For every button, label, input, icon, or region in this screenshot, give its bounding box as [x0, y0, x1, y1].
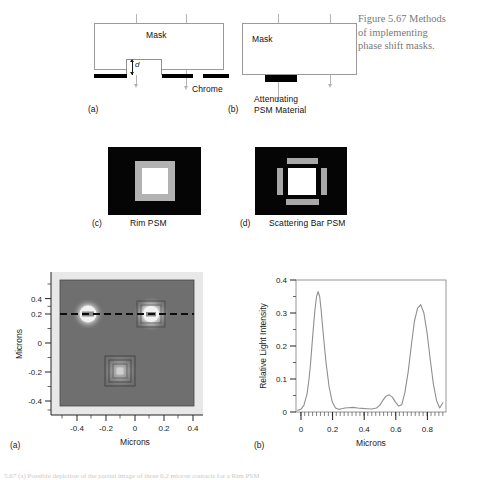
b-x-tick-label-1: 0.2: [327, 425, 339, 434]
chrome-pad-left: [94, 74, 127, 78]
illumination-arrow-left-head: [134, 84, 138, 88]
x-tick-label-2: 0: [133, 424, 138, 433]
panel-d-scattering-bar-psm: (d) Scattering Bar PSM: [236, 147, 386, 229]
y-axis-title-b: Relative Light Intensity: [258, 302, 268, 388]
x-tick-label-4: 0.4: [187, 424, 199, 433]
mask-label-a: Mask: [146, 30, 167, 40]
illumination-arrow-right-head: [184, 86, 188, 90]
x-minor-ticks-b: [301, 412, 443, 416]
scattering-bar-bottom: [286, 199, 319, 205]
scattering-bar-top: [287, 158, 318, 164]
y-tick-label-2: 0: [38, 339, 43, 348]
rim-psm-image: [108, 147, 201, 215]
panel-d-title: Scattering Bar PSM: [269, 218, 345, 228]
figure-caption-line-3: phase shift masks.: [358, 39, 498, 53]
b-y-tick-label-3: 0.1: [276, 375, 288, 384]
rim-psm-aperture: [142, 168, 168, 194]
panel-b-id: (b): [228, 104, 238, 114]
attenuating-label-line-1: Attenuating: [254, 94, 298, 104]
chrome-label: Chrome: [192, 84, 223, 94]
illumination-arrow-b-right-head: [328, 84, 332, 88]
aerial-image-plot-svg: 0.4 0.2 0 -0.2 -0.4 -0.4 -0.2 0 0.2: [8, 258, 248, 458]
rim-psm-rim: [135, 161, 175, 201]
panel-a-plot: 0.4 0.2 0 -0.2 -0.4 -0.4 -0.2 0 0.2: [8, 258, 248, 458]
scattering-bar-aperture: [288, 168, 316, 195]
b-x-tick-label-3: 0.6: [390, 425, 402, 434]
mask-body-b: [242, 23, 357, 75]
y-tick-label-4: -0.4: [28, 397, 42, 406]
b-x-tick-label-2: 0.4: [359, 425, 371, 434]
attenuating-label-line-2: PSM Material: [254, 105, 306, 115]
figure-page: Figure 5.67 Methods of implementing phas…: [0, 0, 500, 480]
x-tick-label-3: 0.2: [158, 424, 170, 433]
chart-plot-area: [296, 280, 446, 412]
b-x-tick-label-0: 0: [299, 425, 304, 434]
intensity-chart-svg: 0.4 0.3 0.2 0.1 0 0 0.2 0.4 0.6 0.8 Micr…: [252, 258, 498, 458]
b-x-tick-label-4: 0.8: [422, 425, 434, 434]
scattering-bar-psm-image: [255, 147, 347, 215]
y-axis-title-a: Microns: [14, 329, 24, 359]
panel-b-plot: 0.4 0.3 0.2 0.1 0 0 0.2 0.4 0.6 0.8 Micr…: [252, 258, 498, 458]
panel-a-diagram: d Mask Chrome (a): [88, 14, 233, 119]
y-tick-label-3: -0.2: [28, 368, 42, 377]
panel-b-plot-id: (b): [254, 440, 265, 450]
x-axis-title-a: Microns: [120, 437, 150, 447]
x-major-ticks-b: [301, 412, 427, 420]
x-tick-label-1: -0.2: [99, 424, 113, 433]
scattering-bar-left: [277, 168, 283, 195]
figure-caption: Figure 5.67 Methods of implementing phas…: [358, 12, 498, 53]
chrome-pad-middle: [162, 74, 193, 78]
b-y-tick-label-4: 0: [283, 408, 288, 417]
feature-bottom-core: [117, 368, 124, 375]
y-ticks-b: [290, 280, 296, 412]
panel-b-diagram: Mask Attenuating PSM Material (b): [236, 14, 366, 119]
panel-a-id: (a): [88, 104, 98, 114]
panel-a-plot-id: (a): [10, 440, 21, 450]
y-tick-label-0: 0.4: [31, 295, 43, 304]
x-axis-title-b: Microns: [356, 438, 386, 448]
y-tick-label-1: 0.2: [31, 310, 43, 319]
b-y-tick-label-0: 0.4: [276, 276, 288, 285]
x-tick-label-0: -0.4: [70, 424, 84, 433]
panel-d-id: (d): [240, 218, 250, 228]
bottom-caption: 5.67 (a) Possible depiction of the parti…: [4, 472, 259, 480]
mask-label-b: Mask: [252, 34, 273, 44]
attenuating-psm-block: [265, 75, 297, 82]
b-y-tick-label-1: 0.3: [276, 309, 288, 318]
panel-c-title: Rim PSM: [130, 218, 167, 228]
b-y-tick-label-2: 0.2: [276, 342, 288, 351]
chrome-pad-right: [203, 74, 229, 78]
figure-caption-line-2: of implementing: [358, 26, 498, 40]
depth-label: d: [135, 60, 139, 69]
panel-c-id: (c): [92, 218, 102, 228]
figure-caption-line-1: Figure 5.67 Methods: [358, 12, 498, 26]
panel-c-rim-psm: (c) Rim PSM: [92, 147, 232, 229]
depth-arrow-down-head: [130, 72, 134, 75]
y-ticks-a: [45, 284, 51, 410]
scattering-bar-right: [321, 168, 327, 195]
x-ticks-a: [62, 415, 193, 421]
